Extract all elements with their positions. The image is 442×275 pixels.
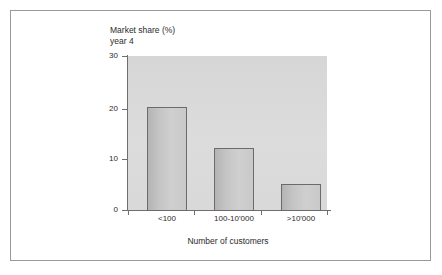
y-tick-20: 20 xyxy=(122,109,128,110)
x-tick-3 xyxy=(327,210,328,215)
y-tick-label-30: 30 xyxy=(109,51,118,60)
y-tick-label-20: 20 xyxy=(109,104,118,113)
bar-category-0 xyxy=(147,107,187,211)
chart-subtitle: year 4 xyxy=(110,36,175,47)
chart-title: Market share (%) xyxy=(110,25,175,36)
y-axis-line xyxy=(127,55,128,211)
y-tick-30: 30 xyxy=(122,56,128,57)
x-category-label-0: <100 xyxy=(158,214,176,223)
x-axis-title: Number of customers xyxy=(187,236,268,246)
x-category-label-1: 100-10'000 xyxy=(214,214,254,223)
y-tick-label-10: 10 xyxy=(109,154,118,163)
x-tick-1 xyxy=(194,210,195,215)
x-tick-2 xyxy=(261,210,262,215)
x-tick-0 xyxy=(128,210,129,215)
y-tick-10: 10 xyxy=(122,159,128,160)
bar-category-1 xyxy=(214,148,254,211)
bar-category-2 xyxy=(281,184,321,211)
x-category-label-2: >10'000 xyxy=(287,214,315,223)
y-tick-label-0: 0 xyxy=(114,205,118,214)
chart-title-block: Market share (%) year 4 xyxy=(110,25,175,46)
bar-chart: Market share (%) year 4 30 20 10 0 <100 … xyxy=(0,0,442,275)
figure-canvas: Market share (%) year 4 30 20 10 0 <100 … xyxy=(0,0,442,275)
